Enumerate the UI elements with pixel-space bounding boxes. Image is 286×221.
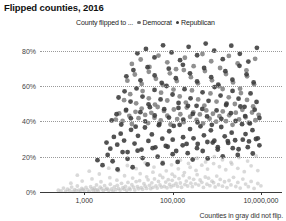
data-point	[226, 54, 231, 59]
x-tick-label: 1,000	[75, 197, 93, 204]
data-point	[224, 168, 228, 172]
legend-item-republican[interactable]: Republican	[176, 19, 215, 26]
data-point	[206, 167, 210, 171]
data-point	[165, 98, 170, 103]
data-point	[170, 178, 174, 182]
data-point	[70, 185, 74, 189]
data-point	[134, 180, 138, 184]
data-point	[194, 103, 199, 108]
data-point	[188, 165, 192, 169]
data-point	[236, 147, 241, 152]
data-point	[250, 128, 255, 133]
data-point	[245, 145, 250, 150]
data-point	[227, 179, 231, 183]
data-point	[218, 178, 222, 182]
data-point	[152, 87, 157, 92]
data-point	[152, 73, 157, 78]
data-point	[232, 175, 236, 179]
data-point	[256, 169, 260, 173]
data-point	[75, 184, 79, 188]
plot-area	[40, 33, 282, 192]
legend-item-democrat[interactable]: Democrat	[137, 19, 172, 26]
data-point	[220, 57, 225, 62]
data-point	[140, 94, 145, 99]
data-point	[251, 80, 256, 85]
data-point	[257, 143, 262, 148]
legend-dot-democrat-icon	[137, 21, 140, 24]
data-point	[252, 107, 257, 112]
data-point	[175, 160, 180, 165]
data-point	[243, 114, 248, 119]
data-point	[115, 178, 119, 182]
data-point	[205, 114, 210, 119]
data-point	[138, 110, 143, 115]
data-point	[138, 78, 143, 83]
data-point	[87, 169, 91, 173]
data-point	[248, 91, 253, 96]
data-point	[146, 96, 151, 101]
data-point	[195, 146, 200, 151]
data-point	[178, 112, 183, 117]
data-point	[124, 107, 129, 112]
data-point	[128, 92, 133, 97]
data-point	[158, 97, 163, 102]
data-point	[134, 101, 139, 106]
data-point	[150, 181, 154, 185]
data-point	[157, 180, 161, 184]
data-point	[174, 67, 179, 72]
data-point	[122, 138, 127, 143]
y-tick-label: 0%	[26, 189, 36, 196]
data-point	[211, 111, 216, 116]
data-point	[219, 125, 224, 130]
page-title: Flipped counties, 2016	[4, 2, 104, 13]
data-point	[229, 43, 234, 48]
data-point	[184, 179, 188, 183]
data-point	[197, 112, 202, 117]
data-point	[208, 91, 213, 96]
data-point	[250, 151, 255, 156]
data-point	[146, 102, 151, 107]
data-point	[143, 125, 148, 130]
chart-root: Flipped counties, 2016 County flipped to…	[0, 0, 286, 221]
data-point	[188, 127, 193, 132]
data-point	[252, 187, 256, 191]
data-point	[151, 170, 155, 174]
x-tick-mark	[173, 192, 174, 195]
data-point	[247, 139, 252, 144]
data-point	[129, 62, 134, 67]
data-point	[218, 66, 223, 71]
data-point	[132, 141, 137, 146]
y-tick-label: 40%	[22, 118, 36, 125]
data-point	[255, 45, 260, 50]
gridline-y	[40, 51, 282, 52]
data-point	[62, 186, 66, 190]
data-point	[115, 167, 120, 172]
data-point	[233, 110, 238, 115]
data-point	[186, 103, 191, 108]
data-point	[203, 41, 208, 46]
data-point	[165, 60, 170, 65]
data-point	[145, 175, 149, 179]
data-point	[171, 124, 176, 129]
data-point	[200, 107, 205, 112]
data-point	[236, 96, 241, 101]
data-point	[138, 179, 142, 183]
data-point	[152, 113, 157, 118]
data-point	[186, 44, 191, 49]
data-point	[131, 68, 136, 73]
data-point	[132, 72, 137, 77]
legend-dot-republican-icon	[176, 21, 179, 24]
data-point	[254, 100, 259, 105]
data-point	[178, 181, 182, 185]
data-point	[190, 157, 195, 162]
data-point	[238, 186, 242, 190]
data-point	[225, 139, 230, 144]
legend-label-democrat: Democrat	[143, 19, 172, 26]
data-point	[114, 112, 119, 117]
data-point	[221, 184, 225, 188]
data-point	[241, 177, 245, 181]
data-point	[230, 89, 235, 94]
data-point	[222, 134, 227, 139]
data-point	[159, 90, 164, 95]
data-point	[104, 140, 109, 145]
